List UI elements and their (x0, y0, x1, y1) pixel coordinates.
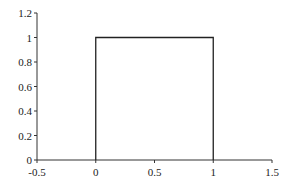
y-tick-label: 0 (27, 154, 33, 166)
x-tick-label: 0 (93, 166, 99, 178)
y-tick-label: 0.2 (18, 130, 32, 142)
x-tick-label: -0.5 (28, 166, 46, 178)
y-tick-label: 1 (27, 32, 33, 44)
y-tick-label: 0.6 (18, 81, 32, 93)
plot-area (96, 38, 214, 161)
y-tick-label: 1.2 (18, 7, 32, 19)
y-tick-label: 0.8 (18, 56, 32, 68)
x-tick-label: 1 (211, 166, 217, 178)
x-axis: -0.500.511.5 (28, 160, 279, 178)
x-tick-label: 1.5 (265, 166, 279, 178)
y-tick-label: 0.4 (18, 105, 32, 117)
x-tick-label: 0.5 (148, 166, 162, 178)
y-axis: 00.20.40.60.811.2 (18, 7, 37, 166)
chart: 00.20.40.60.811.2 -0.500.511.5 (0, 0, 291, 186)
series-line (96, 38, 214, 161)
